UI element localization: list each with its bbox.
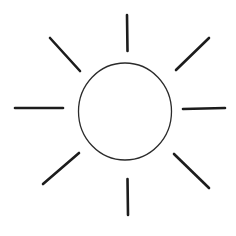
ray-north [127,15,128,51]
sun-icon [0,0,236,236]
canvas-background [0,0,236,236]
ray-east [183,108,225,109]
ray-south [128,179,129,215]
sun-drawing-canvas [0,0,236,236]
